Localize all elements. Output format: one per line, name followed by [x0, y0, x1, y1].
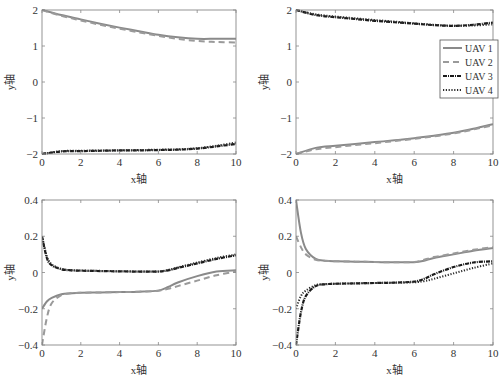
- x-tick-label: 8: [194, 347, 200, 359]
- y-tick-label: 0: [33, 76, 39, 88]
- series-group: [296, 200, 493, 345]
- x-tick-label: 6: [156, 347, 162, 359]
- y-tick-label: 0.4: [24, 194, 38, 206]
- y-tick-label: 0.2: [278, 230, 292, 242]
- x-tick-label: 8: [451, 347, 457, 359]
- y-tick-label: 1: [287, 40, 293, 52]
- line-uav-3: [42, 236, 236, 271]
- y-tick-label: 0: [287, 76, 293, 88]
- y-tick-label: 1: [33, 40, 39, 52]
- y-tick-label: −1: [280, 112, 292, 124]
- line-uav-1: [296, 124, 493, 154]
- line-uav-1: [296, 200, 493, 262]
- x-tick-label: 10: [231, 156, 243, 168]
- y-axis-label: y轴: [257, 264, 270, 281]
- legend-entry-label: UAV 3: [465, 71, 493, 82]
- x-tick-label: 10: [488, 156, 500, 168]
- x-tick-label: 6: [411, 347, 417, 359]
- line-uav-3: [296, 261, 493, 345]
- x-tick-label: 4: [372, 347, 378, 359]
- y-tick-label: 0.2: [24, 230, 38, 242]
- y-tick-label: −2: [280, 148, 292, 160]
- x-axis-label: x轴: [386, 363, 403, 376]
- x-tick-label: 4: [372, 156, 378, 168]
- line-uav-1: [42, 10, 236, 39]
- legend-entry-label: UAV 2: [465, 57, 493, 68]
- legend-entry-label: UAV 1: [465, 43, 493, 54]
- x-tick-label: 10: [231, 347, 243, 359]
- y-tick-label: 0: [33, 267, 39, 279]
- axes-frame: [296, 200, 493, 345]
- series-group: [42, 236, 236, 345]
- line-uav-3: [296, 10, 493, 26]
- subplot-top-left: 0246810−2−1012x轴y轴: [3, 4, 242, 185]
- x-tick-label: 4: [117, 156, 123, 168]
- x-tick-label: 2: [78, 156, 84, 168]
- x-tick-label: 2: [333, 156, 339, 168]
- line-uav-4: [42, 236, 236, 271]
- line-uav-1: [42, 270, 236, 308]
- legend-entry-label: UAV 4: [465, 85, 493, 96]
- line-uav-4: [42, 142, 236, 154]
- y-tick-label: −0.2: [272, 303, 292, 315]
- x-axis-label: x轴: [131, 363, 148, 376]
- x-tick-label: 2: [333, 347, 339, 359]
- line-uav-2: [296, 236, 493, 262]
- x-axis-label: x轴: [386, 172, 403, 185]
- y-tick-label: −0.2: [18, 303, 38, 315]
- x-tick-label: 0: [39, 156, 45, 168]
- y-tick-label: 0: [287, 267, 293, 279]
- line-uav-3: [42, 144, 236, 154]
- y-tick-label: −1: [26, 112, 38, 124]
- y-tick-label: 2: [33, 4, 39, 16]
- x-tick-label: 6: [411, 156, 417, 168]
- subplot-bottom-left: 0246810−0.4−0.200.20.4x轴y轴: [3, 194, 242, 376]
- line-uav-2: [42, 272, 236, 345]
- line-uav-4: [296, 263, 493, 308]
- line-uav-4: [296, 10, 493, 26]
- x-axis-label: x轴: [131, 172, 148, 185]
- x-tick-label: 4: [117, 347, 123, 359]
- subplot-bottom-right: 0246810−0.4−0.200.20.4x轴y轴: [257, 194, 499, 376]
- y-tick-label: 0.4: [278, 194, 292, 206]
- x-tick-label: 8: [451, 156, 457, 168]
- x-tick-label: 10: [488, 347, 500, 359]
- y-tick-label: −0.4: [272, 339, 292, 351]
- y-tick-label: 2: [287, 4, 293, 16]
- y-axis-label: y轴: [3, 264, 16, 281]
- y-tick-label: −2: [26, 148, 38, 160]
- x-tick-label: 6: [156, 156, 162, 168]
- y-tick-label: −0.4: [18, 339, 38, 351]
- x-tick-label: 0: [293, 156, 299, 168]
- y-axis-label: y轴: [257, 74, 270, 91]
- x-tick-label: 2: [78, 347, 84, 359]
- x-tick-label: 8: [194, 156, 200, 168]
- figure: 0246810−2−1012x轴y轴 0246810−2−1012x轴y轴 02…: [0, 0, 500, 386]
- series-group: [42, 10, 236, 154]
- y-axis-label: y轴: [3, 74, 16, 91]
- x-tick-label: 0: [293, 347, 299, 359]
- x-tick-label: 0: [39, 347, 45, 359]
- legend: UAV 1UAV 2UAV 3UAV 4: [440, 40, 498, 98]
- line-uav-2: [42, 10, 236, 42]
